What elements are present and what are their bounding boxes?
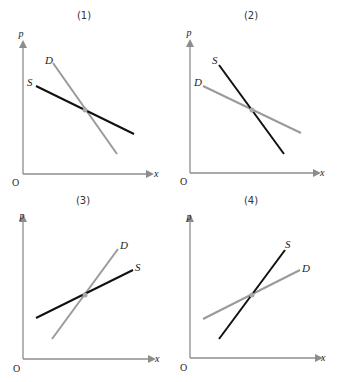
x-axis-label: x: [319, 167, 325, 178]
supply-demand-diagram: (1) p x O S D (2) p x O S D (3) p x O S: [0, 0, 338, 382]
supply-label: S: [27, 76, 33, 88]
panel-title: (4): [244, 195, 258, 206]
supply-label: S: [212, 54, 218, 66]
origin-label: O: [13, 363, 20, 374]
panel-title: (1): [77, 10, 91, 21]
demand-label: D: [193, 76, 202, 88]
y-axis-label: p: [19, 210, 25, 221]
equilibrium-point: [83, 293, 88, 298]
x-axis-label: x: [153, 168, 159, 179]
equilibrium-point: [83, 108, 88, 113]
demand-label: D: [44, 54, 53, 66]
panel-title: (3): [76, 195, 90, 206]
demand-label: D: [119, 239, 128, 251]
supply-label: S: [285, 238, 291, 250]
y-axis-label: p: [186, 27, 192, 38]
equilibrium-point: [250, 293, 255, 298]
x-axis-label: x: [154, 353, 160, 364]
panel-2: (2) p x O S D: [180, 10, 325, 187]
panel-4: (4) p x O S D: [180, 195, 326, 373]
y-axis-label: p: [18, 28, 24, 39]
panel-1: (1) p x O S D: [12, 10, 159, 188]
equilibrium-point: [250, 108, 255, 113]
panel-3: (3) p x O S D: [13, 195, 160, 374]
origin-label: O: [180, 362, 187, 373]
demand-label: D: [301, 262, 310, 274]
y-axis-label: p: [186, 211, 192, 222]
x-axis-label: x: [320, 352, 326, 363]
origin-label: O: [180, 176, 187, 187]
origin-label: O: [12, 177, 19, 188]
panel-title: (2): [244, 10, 258, 21]
supply-label: S: [135, 261, 141, 273]
